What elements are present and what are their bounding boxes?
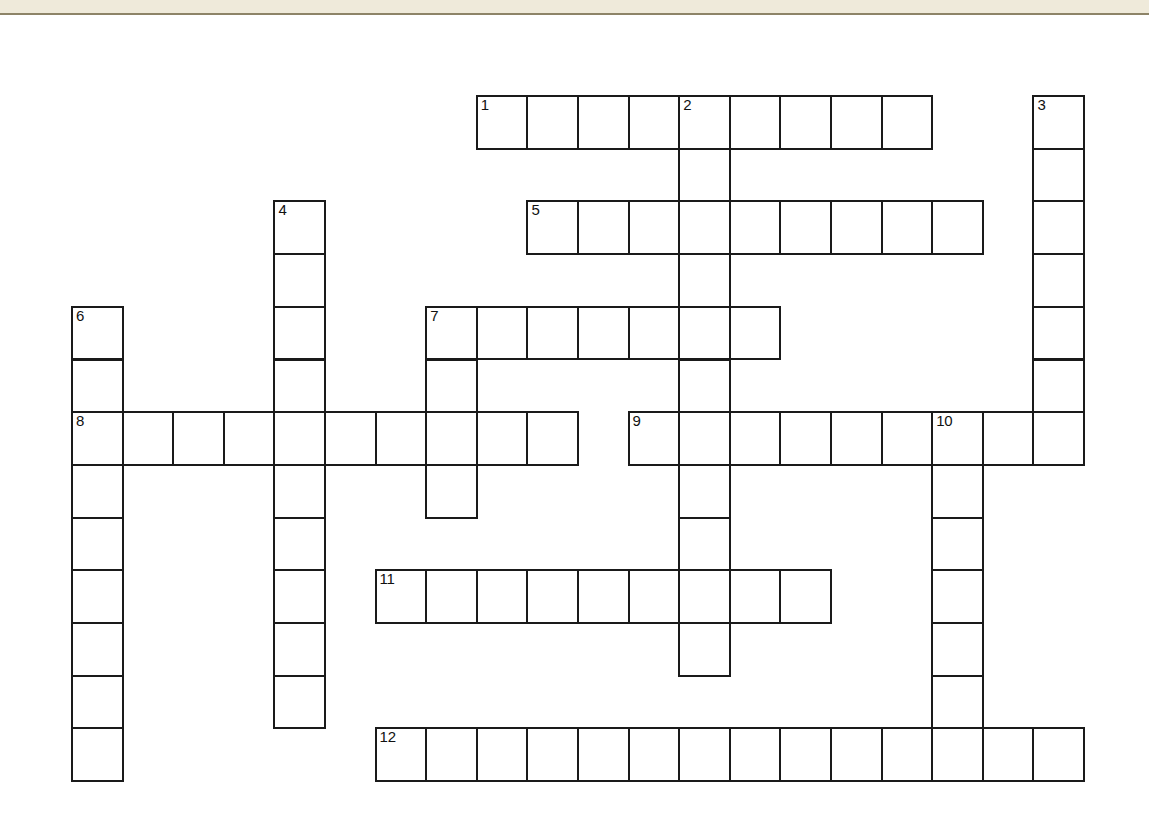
crossword-cell[interactable] (526, 569, 579, 624)
crossword-cell[interactable] (678, 517, 731, 572)
crossword-cell[interactable]: 9 (628, 411, 681, 466)
crossword-cell[interactable] (931, 464, 984, 519)
crossword-cell[interactable] (779, 569, 832, 624)
crossword-cell[interactable] (526, 727, 579, 782)
crossword-cell[interactable] (1032, 200, 1085, 255)
crossword-cell[interactable] (982, 727, 1035, 782)
crossword-cell[interactable] (678, 200, 731, 255)
crossword-cell[interactable] (273, 359, 326, 414)
crossword-cell[interactable] (678, 727, 731, 782)
crossword-cell[interactable] (729, 727, 782, 782)
crossword-cell[interactable] (273, 675, 326, 730)
crossword-cell[interactable] (122, 411, 175, 466)
crossword-cell[interactable] (931, 200, 984, 255)
crossword-cell[interactable] (273, 411, 326, 466)
crossword-cell[interactable] (830, 411, 883, 466)
crossword-cell[interactable] (931, 675, 984, 730)
crossword-cell[interactable] (71, 517, 124, 572)
crossword-cell[interactable] (324, 411, 377, 466)
crossword-cell[interactable] (71, 359, 124, 414)
crossword-cell[interactable] (577, 200, 630, 255)
crossword-cell[interactable] (425, 569, 478, 624)
crossword-cell[interactable] (881, 411, 934, 466)
crossword-cell[interactable] (678, 464, 731, 519)
crossword-cell[interactable] (881, 95, 934, 150)
crossword-cell[interactable] (779, 200, 832, 255)
crossword-cell[interactable] (172, 411, 225, 466)
crossword-cell[interactable] (678, 411, 731, 466)
crossword-cell[interactable] (628, 727, 681, 782)
crossword-cell[interactable]: 4 (273, 200, 326, 255)
crossword-cell[interactable] (729, 95, 782, 150)
crossword-cell[interactable] (1032, 359, 1085, 414)
crossword-cell[interactable] (678, 359, 731, 414)
crossword-cell[interactable] (881, 200, 934, 255)
crossword-cell[interactable] (931, 622, 984, 677)
crossword-cell[interactable]: 1 (476, 95, 529, 150)
crossword-cell[interactable]: 11 (375, 569, 428, 624)
crossword-cell[interactable] (273, 569, 326, 624)
crossword-cell[interactable]: 5 (526, 200, 579, 255)
crossword-cell[interactable]: 2 (678, 95, 731, 150)
crossword-cell[interactable] (1032, 411, 1085, 466)
crossword-cell[interactable] (273, 306, 326, 361)
crossword-cell[interactable] (931, 569, 984, 624)
crossword-cell[interactable] (476, 306, 529, 361)
crossword-cell[interactable] (71, 569, 124, 624)
crossword-cell[interactable] (678, 622, 731, 677)
crossword-cell[interactable] (577, 95, 630, 150)
crossword-cell[interactable] (273, 464, 326, 519)
crossword-cell[interactable] (678, 306, 731, 361)
crossword-cell[interactable] (729, 569, 782, 624)
crossword-cell[interactable] (678, 569, 731, 624)
crossword-grid[interactable]: 123456789101112 (0, 0, 1149, 819)
crossword-cell[interactable] (931, 727, 984, 782)
crossword-cell[interactable] (526, 411, 579, 466)
crossword-cell[interactable]: 12 (375, 727, 428, 782)
crossword-cell[interactable]: 6 (71, 306, 124, 361)
crossword-cell[interactable] (830, 727, 883, 782)
crossword-cell[interactable] (476, 727, 529, 782)
crossword-cell[interactable] (931, 517, 984, 572)
crossword-cell[interactable] (476, 411, 529, 466)
crossword-cell[interactable] (273, 622, 326, 677)
crossword-cell[interactable]: 10 (931, 411, 984, 466)
crossword-cell[interactable] (425, 359, 478, 414)
crossword-cell[interactable] (1032, 727, 1085, 782)
crossword-cell[interactable] (881, 727, 934, 782)
crossword-cell[interactable]: 3 (1032, 95, 1085, 150)
crossword-cell[interactable] (273, 253, 326, 308)
crossword-cell[interactable] (779, 411, 832, 466)
crossword-cell[interactable] (628, 306, 681, 361)
crossword-cell[interactable] (729, 200, 782, 255)
crossword-cell[interactable] (71, 727, 124, 782)
crossword-cell[interactable] (71, 622, 124, 677)
crossword-cell[interactable] (273, 517, 326, 572)
crossword-cell[interactable] (779, 727, 832, 782)
crossword-cell[interactable] (628, 569, 681, 624)
crossword-cell[interactable] (982, 411, 1035, 466)
crossword-cell[interactable] (628, 200, 681, 255)
crossword-cell[interactable] (526, 306, 579, 361)
crossword-cell[interactable] (779, 95, 832, 150)
crossword-cell[interactable] (71, 675, 124, 730)
crossword-cell[interactable] (1032, 306, 1085, 361)
crossword-cell[interactable] (1032, 148, 1085, 203)
crossword-cell[interactable] (577, 727, 630, 782)
crossword-cell[interactable] (1032, 253, 1085, 308)
crossword-cell[interactable] (526, 95, 579, 150)
crossword-cell[interactable] (223, 411, 276, 466)
crossword-cell[interactable] (830, 95, 883, 150)
crossword-cell[interactable] (577, 569, 630, 624)
crossword-cell[interactable] (678, 148, 731, 203)
crossword-cell[interactable] (476, 569, 529, 624)
crossword-cell[interactable] (425, 464, 478, 519)
crossword-cell[interactable] (628, 95, 681, 150)
crossword-cell[interactable] (425, 727, 478, 782)
crossword-cell[interactable] (425, 411, 478, 466)
crossword-cell[interactable] (830, 200, 883, 255)
crossword-cell[interactable] (729, 411, 782, 466)
crossword-cell[interactable] (71, 464, 124, 519)
crossword-cell[interactable] (577, 306, 630, 361)
crossword-cell[interactable] (678, 253, 731, 308)
